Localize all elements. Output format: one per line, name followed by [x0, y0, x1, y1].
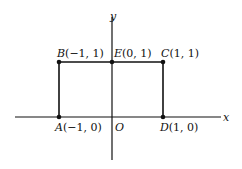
point-C: [161, 60, 166, 65]
label-C: C(1, 1): [161, 47, 199, 60]
label-E: E(0, 1): [113, 47, 152, 60]
point-A: [57, 115, 62, 120]
origin-label: O: [115, 121, 124, 134]
coordinate-diagram: y x O B(−1, 1) E(0, 1) C(1, 1) A(−1, 0) …: [0, 0, 242, 169]
point-E: [110, 60, 115, 65]
y-axis-label: y: [109, 10, 117, 23]
label-B: B(−1, 1): [56, 47, 104, 60]
point-B: [57, 60, 62, 65]
point-D: [161, 115, 166, 120]
label-A: A(−1, 0): [54, 121, 102, 134]
label-D: D(1, 0): [159, 121, 198, 134]
x-axis-label: x: [223, 111, 230, 124]
